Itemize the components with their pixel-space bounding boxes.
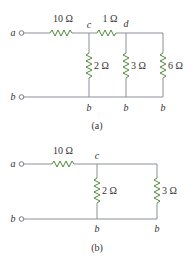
resistor-2ohm-b	[94, 178, 100, 203]
label-3ohm-b: 3 Ω	[162, 185, 177, 196]
label-1ohm-a: 1 Ω	[103, 13, 118, 24]
terminal-b-icon	[19, 95, 24, 100]
node-label-d: d	[124, 18, 130, 29]
resistor-10ohm-b	[52, 161, 74, 167]
node-label-b2-b: b	[155, 223, 160, 234]
resistor-6ohm-a	[160, 53, 166, 78]
node-label-b3: b	[161, 102, 166, 113]
node-label-b1-b: b	[95, 223, 100, 234]
circuit-diagrams: a b 10 Ω 1 Ω c d 2 Ω 3 Ω 6 Ω b b b (a) a…	[0, 0, 194, 259]
terminal-label-a: a	[11, 27, 16, 38]
node-label-c: c	[87, 19, 92, 30]
caption-a: (a)	[91, 120, 102, 132]
terminal-label-b: b	[11, 91, 16, 102]
label-3ohm-a: 3 Ω	[131, 60, 146, 71]
node-label-c-b: c	[95, 150, 100, 161]
node-label-b2: b	[124, 102, 129, 113]
resistor-3ohm-a	[123, 53, 129, 78]
resistor-3ohm-b	[154, 178, 160, 203]
circuit-b: a b 10 Ω c 2 Ω 3 Ω b b (b)	[11, 145, 177, 254]
caption-b: (b)	[91, 242, 103, 254]
resistor-10ohm-a	[50, 30, 72, 36]
resistor-2ohm-a	[86, 53, 92, 78]
terminal-a-icon	[19, 31, 24, 36]
label-10ohm-a: 10 Ω	[53, 13, 73, 24]
terminal-label-a-b: a	[11, 158, 16, 169]
terminal-a-b-icon	[19, 162, 24, 167]
terminal-label-b-b: b	[11, 213, 16, 224]
resistor-1ohm-a	[97, 30, 116, 36]
node-label-b1: b	[87, 102, 92, 113]
label-10ohm-b: 10 Ω	[53, 145, 73, 156]
label-6ohm-a: 6 Ω	[168, 60, 183, 71]
label-2ohm-a: 2 Ω	[94, 60, 109, 71]
terminal-b-b-icon	[19, 217, 24, 222]
circuit-a: a b 10 Ω 1 Ω c d 2 Ω 3 Ω 6 Ω b b b (a)	[11, 13, 183, 132]
label-2ohm-b: 2 Ω	[102, 185, 117, 196]
